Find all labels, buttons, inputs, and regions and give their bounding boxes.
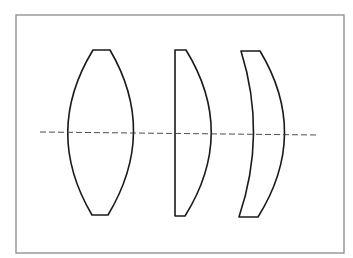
optical-axis	[40, 132, 318, 135]
lens-diagram	[0, 0, 353, 258]
plano-convex-lens	[175, 50, 211, 216]
